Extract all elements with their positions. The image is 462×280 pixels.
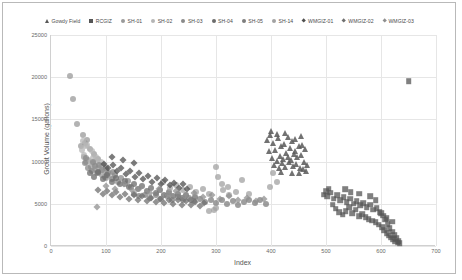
- plot-area: 0500010000150002000025000010020030040050…: [50, 35, 435, 246]
- legend-item-sh-03[interactable]: SH-03: [181, 18, 202, 24]
- y-axis-tick: 25000: [31, 32, 47, 38]
- legend-label: SH-01: [127, 18, 142, 24]
- circle-marker-icon: [151, 19, 155, 23]
- gridline-horizontal: [51, 246, 436, 247]
- data-point: [206, 208, 212, 214]
- data-point: [266, 148, 272, 154]
- data-point: [303, 168, 309, 174]
- chart-frame: Gowdy FieldRCGIZSH-01SH-02SH-03SH-04SH-0…: [2, 2, 456, 274]
- data-point: [356, 191, 362, 197]
- data-point: [130, 160, 137, 167]
- square-marker-icon: [89, 19, 93, 23]
- x-axis-tick: 300: [211, 248, 220, 254]
- data-point: [298, 152, 304, 158]
- data-point: [389, 219, 395, 225]
- data-point: [267, 184, 273, 190]
- data-point: [289, 170, 295, 176]
- diamond-marker-icon: [382, 18, 387, 23]
- legend-item-sh-04[interactable]: SH-04: [212, 18, 233, 24]
- legend-label: Gowdy Field: [52, 18, 81, 24]
- triangle-marker-icon: [45, 19, 49, 23]
- data-point: [104, 172, 110, 178]
- x-axis-label: Index: [50, 259, 435, 266]
- circle-marker-icon: [121, 19, 125, 23]
- legend-label: WMGIZ-03: [388, 18, 413, 24]
- circle-marker-icon: [272, 19, 276, 23]
- gridline-vertical: [106, 35, 107, 246]
- data-point: [302, 146, 308, 152]
- data-point: [353, 207, 359, 213]
- x-axis-tick: 400: [266, 248, 275, 254]
- gridline-horizontal: [51, 119, 436, 120]
- data-point: [90, 159, 96, 165]
- legend-item-sh-05[interactable]: SH-05: [242, 18, 263, 24]
- data-point: [67, 73, 73, 79]
- legend-item-wmgiz-01[interactable]: WMGIZ-01: [302, 18, 333, 24]
- data-point: [397, 241, 403, 247]
- legend-label: SH-03: [188, 18, 203, 24]
- data-point: [225, 184, 231, 190]
- gridline-horizontal: [51, 35, 436, 36]
- circle-marker-icon: [181, 19, 185, 23]
- data-point: [274, 131, 280, 137]
- legend-label: SH-04: [218, 18, 233, 24]
- diamond-marker-icon: [301, 18, 306, 23]
- gridline-horizontal: [51, 162, 436, 163]
- y-axis-tick: 5000: [35, 201, 47, 207]
- x-axis-tick: 700: [431, 248, 440, 254]
- legend-item-wmgiz-03[interactable]: WMGIZ-03: [383, 18, 414, 24]
- legend-label: WMGIZ-02: [348, 18, 373, 24]
- data-point: [373, 198, 379, 204]
- gridline-vertical: [161, 35, 162, 246]
- legend-label: SH-02: [158, 18, 173, 24]
- gridline-vertical: [326, 35, 327, 246]
- chart-legend: Gowdy FieldRCGIZSH-01SH-02SH-03SH-04SH-0…: [45, 14, 435, 27]
- data-point: [113, 175, 119, 181]
- data-point: [118, 164, 125, 171]
- x-axis-tick: 200: [156, 248, 165, 254]
- data-point: [74, 121, 80, 127]
- data-point: [213, 205, 219, 211]
- data-point: [296, 170, 302, 176]
- data-point: [215, 174, 221, 180]
- data-point: [278, 169, 284, 175]
- data-point: [326, 186, 332, 192]
- gridline-vertical: [216, 35, 217, 246]
- y-axis-tick: 10000: [31, 159, 47, 165]
- data-point: [239, 177, 245, 183]
- x-axis-tick: 500: [321, 248, 330, 254]
- y-axis-tick: 20000: [31, 74, 47, 80]
- data-point: [346, 204, 352, 210]
- data-point: [298, 133, 304, 139]
- legend-item-sh-14[interactable]: SH-14: [272, 18, 293, 24]
- legend-label: WMGIZ-01: [308, 18, 333, 24]
- data-point: [213, 164, 219, 170]
- data-point: [304, 162, 310, 168]
- legend-label: RCGIZ: [96, 18, 112, 24]
- legend-item-wmgiz-02[interactable]: WMGIZ-02: [342, 18, 373, 24]
- data-point: [70, 96, 76, 102]
- data-point: [84, 142, 90, 148]
- data-point: [282, 130, 288, 136]
- data-point: [108, 153, 115, 160]
- data-point: [95, 169, 101, 175]
- x-axis-tick: 100: [101, 248, 110, 254]
- scatter-chart: Gowdy FieldRCGIZSH-01SH-02SH-03SH-04SH-0…: [3, 3, 457, 275]
- legend-item-rcgiz[interactable]: RCGIZ: [89, 18, 112, 24]
- legend-item-sh-02[interactable]: SH-02: [151, 18, 172, 24]
- data-point: [274, 179, 280, 185]
- data-point: [406, 79, 412, 85]
- circle-marker-icon: [242, 19, 246, 23]
- data-point: [342, 187, 348, 193]
- circle-marker-icon: [212, 19, 216, 23]
- data-point: [270, 170, 276, 176]
- data-point: [200, 186, 206, 192]
- data-point: [233, 189, 239, 195]
- data-point: [83, 155, 89, 161]
- legend-item-gowdy-field[interactable]: Gowdy Field: [45, 18, 80, 24]
- data-point: [348, 189, 354, 195]
- gridline-vertical: [436, 35, 437, 246]
- data-point: [219, 181, 225, 187]
- x-axis-tick: 0: [49, 248, 52, 254]
- legend-item-sh-01[interactable]: SH-01: [121, 18, 142, 24]
